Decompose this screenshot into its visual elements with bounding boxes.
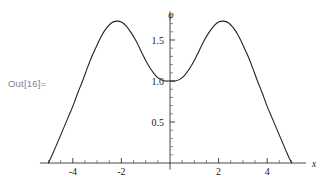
y-axis-tick-label: 1.5 bbox=[152, 35, 165, 46]
x-axis-tick-label: 2 bbox=[216, 166, 221, 177]
plot-area: -4-224 0.51.01.5 x φ bbox=[0, 0, 316, 187]
x-axis-tick-label: -2 bbox=[117, 166, 125, 177]
y-axis-tick-label: 0.5 bbox=[152, 117, 165, 128]
x-axis-tick-label: 4 bbox=[265, 166, 270, 177]
x-axis-tick-labels: -4-224 bbox=[69, 166, 270, 177]
x-axis-tick-label: -4 bbox=[69, 166, 77, 177]
y-axis-label: φ bbox=[168, 10, 173, 20]
x-axis-label: x bbox=[311, 159, 316, 169]
axes-group bbox=[40, 11, 306, 169]
y-axis-tick-labels: 0.51.01.5 bbox=[152, 35, 165, 128]
plot-svg: -4-224 0.51.01.5 x φ bbox=[0, 0, 316, 187]
y-axis-minor-ticks bbox=[170, 24, 173, 155]
